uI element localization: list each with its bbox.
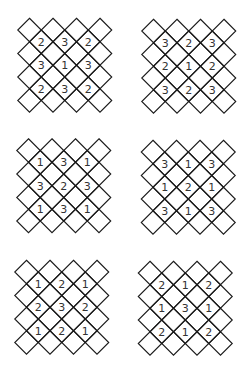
diamond-puzzle-5: 1 2 1 2 3 2 1 2 1 (15, 260, 109, 354)
number-cell: 1 (84, 156, 91, 169)
number-cell: 1 (185, 60, 192, 73)
diamond-cell (209, 308, 233, 332)
number-cell: 3 (37, 180, 44, 193)
number-cell: 1 (208, 181, 215, 194)
number-cell: 3 (38, 59, 45, 72)
number-cells: 2 1 2 1 3 1 2 1 2 (158, 279, 212, 339)
diamond-puzzle-3: 1 3 1 3 2 3 1 3 1 (17, 139, 111, 233)
number-cell: 2 (58, 278, 65, 291)
number-cell: 3 (209, 84, 216, 97)
number-cell: 3 (208, 158, 215, 171)
number-cells: 3 2 3 2 1 2 3 2 3 (162, 37, 216, 97)
diamond-cell (212, 43, 236, 67)
puzzle-sheet: 2 3 2 3 1 3 2 3 2 3 2 3 2 1 2 3 2 (0, 0, 251, 380)
number-cell: 2 (82, 301, 89, 314)
diamond-puzzle-2: 3 2 3 2 1 2 3 2 3 (142, 19, 236, 113)
diamond-cell (212, 90, 236, 114)
number-cells: 3 1 3 1 2 1 3 1 3 (161, 158, 215, 218)
diamond-cell (88, 42, 112, 66)
number-cell: 1 (37, 156, 44, 169)
number-cell: 2 (60, 180, 67, 193)
number-cell: 1 (182, 326, 189, 339)
diamond-cell (85, 331, 109, 355)
number-cell: 3 (161, 158, 168, 171)
number-cell: 1 (185, 158, 192, 171)
number-cell: 3 (84, 180, 91, 193)
number-cell: 2 (58, 325, 65, 338)
diamond-cell (85, 307, 109, 331)
number-cell: 1 (35, 325, 42, 338)
diamond-cell (212, 140, 236, 164)
diamond-cell (212, 187, 236, 211)
number-cell: 1 (205, 302, 212, 315)
diamond-cell (209, 285, 233, 309)
diamond-cell (209, 332, 233, 356)
diamond-cell (87, 209, 111, 233)
number-cell: 2 (35, 301, 42, 314)
number-cell: 2 (85, 36, 92, 49)
number-cell: 1 (35, 278, 42, 291)
number-cell: 2 (185, 84, 192, 97)
diamond-cell (87, 139, 111, 163)
number-cell: 1 (182, 279, 189, 292)
number-cell: 3 (61, 36, 68, 49)
diamond-cell (85, 260, 109, 284)
number-cell: 1 (37, 203, 44, 216)
diamond-cell (88, 89, 112, 113)
number-cell: 2 (158, 326, 165, 339)
diamond-cell (85, 284, 109, 308)
diamond-cell (209, 261, 233, 285)
number-cell: 1 (61, 59, 68, 72)
diamond-cell (212, 66, 236, 90)
puzzle-sheet-canvas: 2 3 2 3 1 3 2 3 2 3 2 3 2 1 2 3 2 (0, 0, 251, 380)
number-cell: 1 (84, 203, 91, 216)
number-cell: 3 (208, 205, 215, 218)
diamond-cell (88, 18, 112, 42)
diamond-puzzle-1: 2 3 2 3 1 3 2 3 2 (18, 18, 112, 112)
number-cell: 3 (60, 203, 67, 216)
number-cell: 3 (161, 205, 168, 218)
number-cell: 2 (205, 326, 212, 339)
diamond-puzzle-4: 3 1 3 1 2 1 3 1 3 (141, 140, 235, 234)
number-cell: 2 (185, 181, 192, 194)
number-cell: 1 (158, 302, 165, 315)
number-cell: 2 (38, 36, 45, 49)
number-cells: 2 3 2 3 1 3 2 3 2 (38, 36, 92, 96)
number-cell: 1 (161, 181, 168, 194)
number-cell: 2 (205, 279, 212, 292)
number-cell: 3 (209, 37, 216, 50)
number-cell: 3 (60, 156, 67, 169)
number-cell: 3 (58, 301, 65, 314)
number-cell: 3 (162, 84, 169, 97)
number-cell: 3 (182, 302, 189, 315)
diamond-cell (87, 162, 111, 186)
number-cell: 1 (82, 325, 89, 338)
diamond-cell (87, 186, 111, 210)
number-cell: 1 (185, 205, 192, 218)
diamond-cell (212, 211, 236, 235)
number-cell: 2 (162, 60, 169, 73)
number-cell: 2 (38, 83, 45, 96)
diamond-cell (88, 65, 112, 89)
diamond-cell (212, 19, 236, 43)
number-cell: 3 (162, 37, 169, 50)
number-cell: 3 (61, 83, 68, 96)
number-cell: 3 (85, 59, 92, 72)
number-cell: 2 (209, 60, 216, 73)
number-cells: 1 2 1 2 3 2 1 2 1 (35, 278, 89, 338)
number-cell: 2 (85, 83, 92, 96)
number-cell: 2 (185, 37, 192, 50)
number-cell: 1 (82, 278, 89, 291)
number-cells: 1 3 1 3 2 3 1 3 1 (37, 156, 91, 216)
number-cell: 2 (158, 279, 165, 292)
diamond-puzzle-6: 2 1 2 1 3 1 2 1 2 (138, 261, 232, 355)
diamond-cell (212, 164, 236, 188)
